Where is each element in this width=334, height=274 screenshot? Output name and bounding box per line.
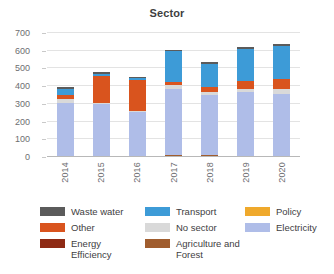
bar-segment[interactable] xyxy=(237,92,254,156)
bar-segment[interactable] xyxy=(237,81,254,89)
legend-item[interactable]: Agriculture and Forest xyxy=(145,238,240,260)
bar-segment[interactable] xyxy=(93,104,110,156)
bar-2017[interactable] xyxy=(165,50,182,157)
x-axis-tick-label: 2020 xyxy=(277,162,287,183)
legend-item[interactable]: Energy Efficiency xyxy=(40,238,140,260)
bar-segment[interactable] xyxy=(129,78,146,80)
sector-chart: Sector Waste waterOtherEnergy Efficiency… xyxy=(0,0,334,274)
y-axis-tick-mark xyxy=(42,139,46,140)
bar-segment[interactable] xyxy=(201,64,218,87)
legend-label: No sector xyxy=(176,222,240,233)
bar-segment[interactable] xyxy=(273,94,290,156)
bar-segment[interactable] xyxy=(273,79,290,89)
y-axis-tick-mark xyxy=(42,51,46,52)
bar-segment[interactable] xyxy=(165,85,182,89)
bar-segment[interactable] xyxy=(57,103,74,156)
bar-segment[interactable] xyxy=(57,99,74,103)
y-axis-tick-label: 500 xyxy=(0,63,30,73)
y-axis-tick-label: 0 xyxy=(0,152,30,162)
bar-segment[interactable] xyxy=(129,77,146,79)
bar-segment[interactable] xyxy=(93,103,110,104)
y-axis-tick-mark xyxy=(42,86,46,87)
legend-swatch-icon xyxy=(145,239,170,248)
bar-segment[interactable] xyxy=(57,95,74,99)
legend-label: Agriculture and Forest xyxy=(176,238,240,260)
bar-segment[interactable] xyxy=(273,46,290,79)
bar-segment[interactable] xyxy=(201,87,218,92)
legend-label: Other xyxy=(71,222,140,233)
x-axis-tick-label: 2014 xyxy=(60,162,70,183)
y-axis-tick-label: 200 xyxy=(0,117,30,127)
axis-baseline xyxy=(47,156,300,157)
y-axis-tick-mark xyxy=(42,33,46,34)
bar-segment[interactable] xyxy=(273,44,290,46)
legend-swatch-icon xyxy=(40,239,65,248)
y-axis-tick-mark xyxy=(42,68,46,69)
bar-2014[interactable] xyxy=(57,87,74,157)
x-axis-tick-label: 2016 xyxy=(132,162,142,183)
bar-segment[interactable] xyxy=(93,72,110,74)
y-axis-tick-mark xyxy=(42,122,46,123)
legend-label: Policy xyxy=(276,206,334,217)
bar-segment[interactable] xyxy=(201,92,218,95)
legend-label: Transport xyxy=(176,206,240,217)
legend-column: TransportNo sectorAgriculture and Forest xyxy=(145,206,240,265)
plot-area xyxy=(47,33,300,157)
bar-segment[interactable] xyxy=(165,82,182,86)
bar-segment[interactable] xyxy=(201,95,218,155)
bar-segment[interactable] xyxy=(165,50,182,52)
bar-segment[interactable] xyxy=(57,89,74,96)
legend-item[interactable]: Waste water xyxy=(40,206,140,217)
y-axis-tick-mark xyxy=(42,157,46,158)
bar-2016[interactable] xyxy=(129,77,146,157)
bar-segment[interactable] xyxy=(165,89,182,155)
legend-item[interactable]: Electricity xyxy=(245,222,334,233)
y-axis-tick-label: 400 xyxy=(0,81,30,91)
bar-2018[interactable] xyxy=(201,62,218,157)
chart-title: Sector xyxy=(0,7,334,19)
legend-swatch-icon xyxy=(145,207,170,216)
legend-label: Energy Efficiency xyxy=(71,238,140,260)
y-axis-tick-label: 700 xyxy=(0,28,30,38)
y-axis-tick-mark xyxy=(42,104,46,105)
bar-segment[interactable] xyxy=(129,80,146,111)
x-axis-tick-label: 2015 xyxy=(96,162,106,183)
bar-segment[interactable] xyxy=(237,49,254,81)
legend-swatch-icon xyxy=(245,223,270,232)
legend-swatch-icon xyxy=(40,207,65,216)
bar-segment[interactable] xyxy=(165,51,182,81)
x-axis-tick-label: 2018 xyxy=(205,162,215,183)
x-axis-tick-label: 2019 xyxy=(241,162,251,183)
legend-swatch-icon xyxy=(145,223,170,232)
bar-segment[interactable] xyxy=(273,89,290,94)
bar-segment[interactable] xyxy=(93,76,110,103)
legend-item[interactable]: No sector xyxy=(145,222,240,233)
bar-segment[interactable] xyxy=(237,47,254,49)
bar-2015[interactable] xyxy=(93,72,110,157)
bar-segment[interactable] xyxy=(57,87,74,89)
bar-segment[interactable] xyxy=(201,62,218,64)
x-axis-tick-label: 2017 xyxy=(169,162,179,183)
bar-2020[interactable] xyxy=(273,44,290,157)
bar-segment[interactable] xyxy=(129,112,146,156)
legend-swatch-icon xyxy=(245,207,270,216)
legend-item[interactable]: Policy xyxy=(245,206,334,217)
legend-item[interactable]: Transport xyxy=(145,206,240,217)
y-axis-tick-label: 300 xyxy=(0,99,30,109)
bar-segment[interactable] xyxy=(237,89,254,92)
bar-segment[interactable] xyxy=(93,74,110,76)
legend-label: Electricity xyxy=(276,222,334,233)
legend-item[interactable]: Other xyxy=(40,222,140,233)
bar-2019[interactable] xyxy=(237,47,254,157)
legend-label: Waste water xyxy=(71,206,140,217)
y-axis-tick-label: 600 xyxy=(0,46,30,56)
y-axis-tick-label: 100 xyxy=(0,134,30,144)
legend-column: Waste waterOtherEnergy Efficiency xyxy=(40,206,140,265)
gridline xyxy=(47,32,300,33)
legend-swatch-icon xyxy=(40,223,65,232)
legend-column: PolicyElectricity xyxy=(245,206,334,238)
